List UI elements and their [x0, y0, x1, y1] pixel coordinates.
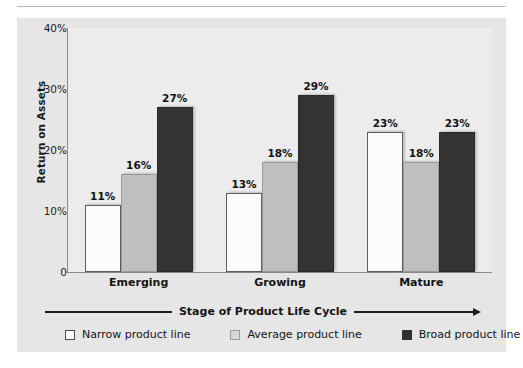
x-axis-category-label: Mature [367, 276, 475, 289]
bar-group: 23%18%23% [367, 28, 475, 272]
figure-panel: Return on Assets 40%30%20%10%0 11%16%27%… [17, 18, 506, 352]
legend-item[interactable]: Narrow product line [65, 328, 190, 341]
bar[interactable]: 29% [298, 95, 334, 272]
bar-value-label: 13% [231, 178, 256, 190]
plot-region: 11%16%27%13%18%29%23%18%23% [67, 28, 492, 273]
arrow-right-icon [473, 308, 481, 316]
bar-slot: 23% [367, 28, 403, 272]
y-axis-tick-label: 10% [25, 205, 67, 217]
y-axis-tick-label: 20% [25, 144, 67, 156]
legend-label: Average product line [247, 328, 361, 341]
bar-slot: 11% [85, 28, 121, 272]
legend-label: Narrow product line [82, 328, 190, 341]
bar-slot: 18% [403, 28, 439, 272]
x-axis-category-labels: EmergingGrowingMature [68, 276, 492, 289]
chart-legend: Narrow product lineAverage product lineB… [65, 328, 485, 341]
bar-slot: 13% [226, 28, 262, 272]
bar[interactable]: 16% [121, 174, 157, 272]
y-axis-tick-label: 0 [25, 266, 67, 278]
bar-slot: 16% [121, 28, 157, 272]
chart-area: Return on Assets 40%30%20%10%0 11%16%27%… [17, 18, 506, 283]
legend-swatch-icon [402, 330, 412, 340]
bar-slot: 29% [298, 28, 334, 272]
bar[interactable]: 13% [226, 193, 262, 272]
bar-group: 11%16%27% [85, 28, 193, 272]
legend-swatch-icon [230, 330, 240, 340]
header-divider [17, 6, 506, 7]
x-axis-title-label: Stage of Product Life Cycle [179, 305, 347, 318]
legend-swatch-icon [65, 330, 75, 340]
y-axis-ticks: 40%30%20%10%0 [25, 18, 67, 283]
legend-item[interactable]: Broad product line [402, 328, 520, 341]
bar-value-label: 23% [373, 117, 398, 129]
axis-arrow-right [354, 308, 481, 316]
bar-value-label: 27% [162, 92, 187, 104]
bar-groups: 11%16%27%13%18%29%23%18%23% [68, 28, 492, 272]
y-axis-tick-label: 40% [25, 22, 67, 34]
legend-item[interactable]: Average product line [230, 328, 361, 341]
bar-slot: 27% [157, 28, 193, 272]
bar[interactable]: 23% [439, 132, 475, 272]
bar-value-label: 18% [267, 147, 292, 159]
bar-slot: 18% [262, 28, 298, 272]
bar-value-label: 23% [445, 117, 470, 129]
x-axis-category-label: Emerging [85, 276, 193, 289]
x-axis-category-label: Growing [226, 276, 334, 289]
bar[interactable]: 27% [157, 107, 193, 272]
bar[interactable]: 18% [403, 162, 439, 272]
bar[interactable]: 23% [367, 132, 403, 272]
x-axis-title: Stage of Product Life Cycle [45, 305, 481, 318]
bar-value-label: 11% [90, 190, 115, 202]
bar-slot: 23% [439, 28, 475, 272]
legend-label: Broad product line [419, 328, 520, 341]
bar[interactable]: 18% [262, 162, 298, 272]
bar-group: 13%18%29% [226, 28, 334, 272]
bar-value-label: 18% [409, 147, 434, 159]
bar-value-label: 16% [126, 159, 151, 171]
axis-line-left [45, 311, 172, 313]
y-axis-tick-label: 30% [25, 83, 67, 95]
axis-line-right [354, 311, 473, 313]
bar-value-label: 29% [303, 80, 328, 92]
bar[interactable]: 11% [85, 205, 121, 272]
